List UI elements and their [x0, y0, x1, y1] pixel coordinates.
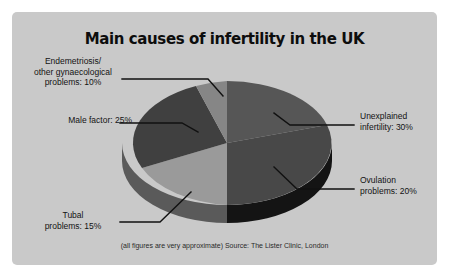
chart-figure: Main causes of infertility in the UK — [0, 0, 449, 278]
callout-label-male-factor: Male factor: 25% — [14, 115, 132, 126]
callout-line: problems: 20% — [360, 186, 449, 197]
callout-line: Tubal — [14, 210, 132, 221]
callout-line: other gynaecological — [14, 67, 132, 78]
callout-line: Ovulation — [360, 175, 449, 186]
chart-panel: Main causes of infertility in the UK — [12, 12, 437, 265]
chart-source-footnote: (all figures are very approximate) Sourc… — [12, 242, 437, 249]
callout-line: problems: 15% — [14, 221, 132, 232]
callout-line: problems: 10% — [14, 77, 132, 88]
callout-line: Endemetriosis/ — [14, 56, 132, 67]
callout-line: Unexplained — [360, 111, 449, 122]
callout-line: Male factor: 25% — [14, 115, 132, 126]
callout-label-ovulation-problems: Ovulation problems: 20% — [360, 175, 449, 196]
callout-label-unexplained-infertility: Unexplained infertility: 30% — [360, 111, 449, 132]
pie-slices — [133, 81, 332, 205]
callout-line: infertility: 30% — [360, 122, 449, 133]
callout-label-tubal-problems: Tubal problems: 15% — [14, 210, 132, 231]
callout-label-endometriosis: Endemetriosis/ other gynaecological prob… — [14, 56, 132, 88]
